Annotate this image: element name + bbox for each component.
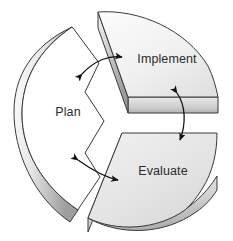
implement-bottom-side [128,97,218,113]
segment-implement[interactable]: Implement [98,12,218,113]
plan-label: Plan [55,105,80,119]
segment-evaluate[interactable]: Evaluate [88,133,217,232]
diagram-canvas: Plan Implement Evaluate [0,0,233,241]
implement-label: Implement [137,52,197,66]
evaluate-label: Evaluate [138,164,187,178]
evaluate-top-face [88,133,217,227]
cycle-diagram: Plan Implement Evaluate [0,0,233,241]
segment-plan[interactable]: Plan [14,27,104,222]
